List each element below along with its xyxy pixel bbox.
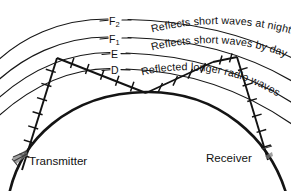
ionosphere-propagation-figure: F2 F1 E D Reflects short waves at night … bbox=[0, 0, 291, 191]
layer-label-f1: F1 bbox=[109, 33, 120, 48]
layer-label-f2: F2 bbox=[109, 15, 120, 30]
transmitter-label: Transmitter bbox=[29, 154, 87, 167]
caption-reflects-day: Reflects short waves by day bbox=[150, 33, 290, 59]
layer-label-d: D bbox=[111, 64, 119, 76]
layer-label-e: E bbox=[111, 48, 118, 60]
earth-surface-arc bbox=[8, 92, 288, 191]
upper-apex-ray bbox=[213, 57, 237, 62]
diagram-canvas: F2 F1 E D Reflects short waves at night … bbox=[0, 0, 291, 191]
receiver-downlink-ray bbox=[237, 57, 268, 160]
caption-reflects-night: Reflects short waves at night bbox=[150, 14, 291, 35]
receiver-label: Receiver bbox=[206, 151, 252, 164]
